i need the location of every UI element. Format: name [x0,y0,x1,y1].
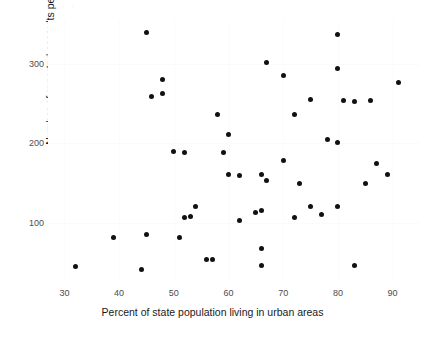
data-point [325,137,330,142]
data-point [281,158,286,163]
data-point [144,232,149,237]
gridline-horizontal [48,64,420,65]
data-point [385,172,390,177]
data-point [259,172,264,177]
x-tick-label: 90 [380,288,406,298]
data-point [253,210,258,215]
data-point [193,204,198,209]
data-point [171,149,176,154]
y-tick-label: 100 [16,218,44,228]
data-point [177,235,182,240]
x-axis-ticks: 30405060708090 [0,288,425,302]
data-point [188,214,193,219]
y-tick-label: 200 [16,138,44,148]
data-point [182,150,187,155]
gridline-horizontal [48,223,420,224]
data-point [160,77,165,82]
data-point [259,263,264,268]
data-point [363,181,368,186]
gridline-vertical [229,20,230,282]
data-point [215,112,220,117]
x-tick-label: 60 [216,288,242,298]
data-point [139,267,144,272]
gridline-vertical [64,20,65,282]
x-tick-label: 40 [106,288,132,298]
data-point [221,150,226,155]
data-point [308,97,313,102]
data-point [335,204,340,209]
data-point [149,94,154,99]
y-tick-label: 300 [16,59,44,69]
data-point [281,73,286,78]
data-point [182,215,187,220]
gridline-vertical [338,20,339,282]
x-axis-title: Percent of state population living in ur… [40,306,385,318]
data-point [352,99,357,104]
plot-panel [48,20,420,282]
data-point [160,91,165,96]
scatter-plot-figure: . . Number of reported assaults per 100,… [0,0,425,338]
data-point [144,30,149,35]
data-point [297,181,302,186]
data-point [368,98,373,103]
data-point [204,257,209,262]
x-tick-label: 80 [325,288,351,298]
data-point [292,215,297,220]
data-point [259,208,264,213]
x-tick-label: 70 [270,288,296,298]
data-point [335,32,340,37]
top-text-fragment: . . [62,1,77,8]
data-point [111,235,116,240]
data-point [352,263,357,268]
gridline-vertical [283,20,284,282]
data-point [226,132,231,137]
data-point [308,204,313,209]
x-tick-label: 30 [51,288,77,298]
data-point [226,172,231,177]
data-point [73,264,78,269]
gridline-vertical [393,20,394,282]
x-tick-label: 50 [161,288,187,298]
data-point [237,173,242,178]
gridline-horizontal [48,143,420,144]
data-point [319,212,324,217]
data-point [264,178,269,183]
data-point [335,66,340,71]
data-point [259,246,264,251]
data-point [210,257,215,262]
gridline-vertical [119,20,120,282]
data-point [374,161,379,166]
data-point [292,112,297,117]
data-point [396,80,401,85]
data-point [341,98,346,103]
